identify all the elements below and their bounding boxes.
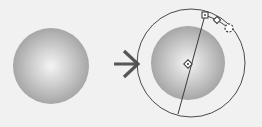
arrow-icon bbox=[114, 51, 138, 77]
square-handle-icon[interactable] bbox=[202, 12, 208, 18]
diagram-svg bbox=[0, 0, 262, 127]
diagram-canvas: Radial gradient applied to circle, befor… bbox=[0, 0, 262, 127]
before-sphere bbox=[13, 28, 89, 104]
rotate-handle-icon[interactable] bbox=[225, 24, 233, 32]
